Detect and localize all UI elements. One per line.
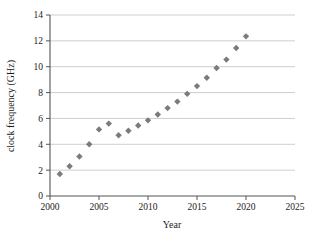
data-point-2002 bbox=[66, 163, 72, 169]
x-tick-label-2000: 2000 bbox=[41, 202, 60, 212]
data-point-2006 bbox=[106, 120, 112, 126]
data-point-2020 bbox=[243, 33, 249, 39]
x-tick-label-2010: 2010 bbox=[139, 202, 158, 212]
y-axis-title: clock frequency (GHz) bbox=[5, 60, 17, 152]
x-tick-group: 200020052010201520202025 bbox=[41, 196, 305, 212]
y-tick-label-14: 14 bbox=[34, 10, 44, 20]
x-tick-label-2015: 2015 bbox=[188, 202, 207, 212]
data-point-2011 bbox=[155, 111, 161, 117]
data-point-group bbox=[57, 33, 250, 177]
data-point-2008 bbox=[125, 128, 131, 134]
data-point-2019 bbox=[233, 45, 239, 51]
data-point-2016 bbox=[204, 75, 210, 81]
data-point-2004 bbox=[86, 141, 92, 147]
y-tick-label-2: 2 bbox=[38, 166, 43, 176]
data-point-2017 bbox=[213, 65, 219, 71]
gridline-group bbox=[50, 15, 295, 170]
data-point-2009 bbox=[135, 122, 141, 128]
y-tick-label-4: 4 bbox=[38, 140, 43, 150]
data-point-2015 bbox=[194, 83, 200, 89]
y-tick-group: 02468101214 bbox=[34, 10, 51, 201]
scatter-plot: 02468101214 200020052010201520202025 Yea… bbox=[0, 0, 323, 233]
data-point-2013 bbox=[174, 98, 180, 104]
x-axis-title: Year bbox=[163, 219, 182, 230]
x-tick-label-2005: 2005 bbox=[90, 202, 109, 212]
chart-figure: 02468101214 200020052010201520202025 Yea… bbox=[0, 0, 323, 233]
data-point-2012 bbox=[164, 105, 170, 111]
axis-group bbox=[50, 15, 295, 196]
data-point-2007 bbox=[115, 132, 121, 138]
data-point-2018 bbox=[223, 56, 229, 62]
y-tick-label-10: 10 bbox=[34, 62, 44, 72]
x-tick-label-2025: 2025 bbox=[286, 202, 305, 212]
y-tick-label-6: 6 bbox=[38, 114, 43, 124]
data-point-2005 bbox=[96, 126, 102, 132]
data-point-2003 bbox=[76, 153, 82, 159]
y-tick-label-0: 0 bbox=[38, 191, 43, 201]
y-tick-label-12: 12 bbox=[34, 36, 44, 46]
y-tick-label-8: 8 bbox=[38, 88, 43, 98]
data-point-2001 bbox=[57, 171, 63, 177]
x-tick-label-2020: 2020 bbox=[237, 202, 256, 212]
data-point-2014 bbox=[184, 91, 190, 97]
